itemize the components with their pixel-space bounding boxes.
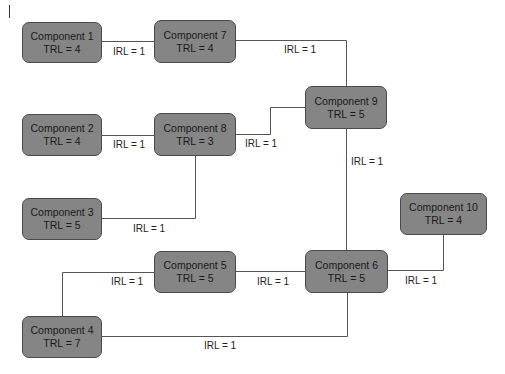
trl-value: TRL = 4 [43,135,80,148]
component-name: Component 6 [315,259,378,272]
irl-label-c5-c4: IRL = 1 [111,276,143,288]
irl-label-c8-c9: IRL = 1 [245,138,277,150]
trl-value: TRL = 4 [425,214,462,227]
trl-value: TRL = 4 [176,42,213,55]
component-9-node: Component 9 TRL = 5 [305,86,387,129]
trl-value: TRL = 7 [43,337,80,350]
component-name: Component 9 [314,95,377,108]
irl-label-c7-c9: IRL = 1 [284,44,316,56]
component-4-node: Component 4 TRL = 7 [22,316,102,358]
component-name: Component 3 [30,206,93,219]
component-name: Component 4 [30,324,93,337]
component-name: Component 1 [30,30,93,43]
edge-c4-c6 [102,293,348,337]
component-6-node: Component 6 TRL = 5 [305,250,388,293]
component-10-node: Component 10 TRL = 4 [400,193,487,235]
edge-c6-c10 [388,235,444,271]
irl-label-c3-c8: IRL = 1 [133,223,165,235]
irl-label-c1-c7: IRL = 1 [113,46,145,58]
component-name: Component 7 [163,29,226,42]
component-5-node: Component 5 TRL = 5 [154,251,236,293]
edge-c3-c8 [102,156,196,219]
component-name: Component 10 [409,201,478,214]
irl-label-c6-c10: IRL = 1 [405,275,437,287]
trl-value: TRL = 4 [43,43,80,56]
edge-c8-c9 [236,108,305,135]
component-name: Component 5 [163,259,226,272]
component-3-node: Component 3 TRL = 5 [22,198,102,240]
trl-value: TRL = 3 [176,135,213,148]
component-7-node: Component 7 TRL = 4 [154,20,236,63]
component-name: Component 2 [30,122,93,135]
irl-label-c9-c6: IRL = 1 [351,156,383,168]
component-2-node: Component 2 TRL = 4 [22,114,102,156]
irl-label-c5-c6: IRL = 1 [257,276,289,288]
irl-label-c2-c8: IRL = 1 [113,139,145,151]
trl-value: TRL = 5 [327,108,364,121]
irl-label-c4-c6: IRL = 1 [204,340,236,352]
component-8-node: Component 8 TRL = 3 [154,113,236,156]
component-name: Component 8 [163,122,226,135]
trl-value: TRL = 5 [43,219,80,232]
integration-diagram: Component 1 TRL = 4 Component 7 TRL = 4 … [0,0,505,374]
component-1-node: Component 1 TRL = 4 [22,22,102,63]
trl-value: TRL = 5 [328,272,365,285]
trl-value: TRL = 5 [176,272,213,285]
